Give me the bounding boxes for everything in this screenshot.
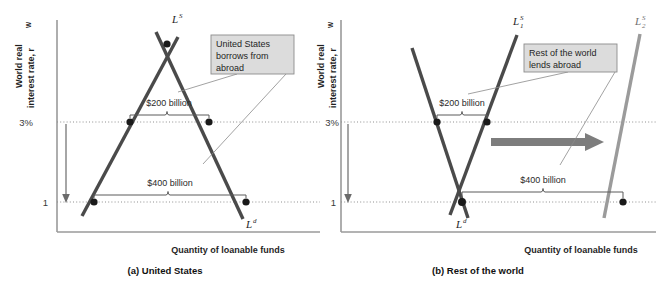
panel-b-supply2-label: L S 2 <box>634 14 646 30</box>
panel-a-point-demand-1 <box>242 198 249 205</box>
panel-b-callout-leader-1 <box>468 72 568 94</box>
panel-b-rate-fall-arrow <box>344 124 352 203</box>
panel-b-gap-200-brace <box>437 112 487 119</box>
panel-rest-of-the-world: World real interest rate, r W 3% 1 L S 1… <box>316 14 656 276</box>
panel-a-supply-curve <box>82 37 178 216</box>
panel-a-ytick-1: 1 <box>43 197 48 208</box>
svg-text:L: L <box>512 15 519 27</box>
panel-a-gap-400-label: $400 billion <box>147 178 193 188</box>
panel-a-point-equilibrium <box>163 40 170 47</box>
panel-b-y-axis-title: World real interest rate, r W <box>316 21 338 108</box>
svg-text:d: d <box>253 217 257 225</box>
svg-text:abroad: abroad <box>216 63 244 73</box>
panel-b-callout: Rest of the world lends abroad <box>524 44 617 72</box>
loanable-funds-figure: World real interest rate, r W 3% 1 L S L… <box>0 0 662 286</box>
panel-a-gap-200-label: $200 billion <box>146 98 192 108</box>
svg-text:d: d <box>463 217 467 225</box>
panel-b-supply-shift-arrow <box>491 133 604 151</box>
panel-b-supply1-curve <box>450 35 517 215</box>
panel-b-x-axis-title: Quantity of loanable funds <box>524 245 638 255</box>
svg-text:United States: United States <box>216 39 271 49</box>
svg-text:S: S <box>642 14 646 22</box>
panel-a-demand-label: L d <box>245 217 257 230</box>
panel-a-caption: (a) United States <box>128 265 203 276</box>
svg-text:S: S <box>179 12 183 20</box>
svg-text:2: 2 <box>642 22 646 30</box>
panel-a-y-axis-title-line2: interest rate, r <box>26 47 36 108</box>
panel-a-x-axis-title: Quantity of loanable funds <box>171 245 285 255</box>
panel-a-point-demand-3pct <box>205 118 212 125</box>
panel-b-y-axis-title-line1: World real <box>316 44 326 88</box>
panel-a-callout-leader-2 <box>203 74 286 164</box>
panel-a-supply-label: L S <box>171 12 183 25</box>
panel-b-ytick-1: 1 <box>331 197 336 208</box>
panel-b-ytick-3-percent: 3% <box>325 117 339 128</box>
panel-b-y-axis-title-subscript: W <box>327 21 334 28</box>
panel-a-point-supply-3pct <box>126 118 133 125</box>
svg-text:L: L <box>245 218 252 230</box>
panel-b-gap-400-brace <box>462 189 623 199</box>
svg-text:lends abroad: lends abroad <box>529 60 581 70</box>
panel-b-gap-200-label: $200 billion <box>439 98 485 108</box>
panel-b-point-supply1-3pct <box>483 118 490 125</box>
panel-a-y-axis-title: World real interest rate, r W <box>14 21 36 108</box>
panel-a-ytick-3-percent: 3% <box>19 117 33 128</box>
panel-b-point-demand-3pct <box>433 118 440 125</box>
panel-a-y-axis-title-subscript: W <box>25 21 32 28</box>
panel-a-y-axis-title-line1: World real <box>14 44 24 88</box>
svg-text:L: L <box>171 13 178 25</box>
svg-text:Rest of the world: Rest of the world <box>529 48 597 58</box>
panel-b-demand-label: L d <box>455 217 467 230</box>
panel-a-rate-fall-arrow <box>62 124 70 203</box>
panel-a-callout-leader-1 <box>178 74 237 92</box>
svg-text:L: L <box>455 218 462 230</box>
panel-b-caption: (b) Rest of the world <box>432 265 524 276</box>
panel-united-states: World real interest rate, r W 3% 1 L S L… <box>14 12 320 276</box>
figure-svg: World real interest rate, r W 3% 1 L S L… <box>0 0 662 286</box>
svg-text:S: S <box>520 14 524 22</box>
panel-b-point-initial-equilibrium <box>458 198 466 206</box>
panel-a-point-supply-1 <box>90 198 97 205</box>
svg-text:L: L <box>634 15 641 27</box>
panel-b-y-axis-title-line2: interest rate, r <box>328 47 338 108</box>
svg-text:borrows from: borrows from <box>216 51 269 61</box>
panel-a-gap-400-brace <box>94 192 246 199</box>
panel-b-point-supply2-1 <box>619 198 626 205</box>
panel-b-callout-leader-2 <box>560 72 615 165</box>
panel-b-gap-400-label: $400 billion <box>520 175 566 185</box>
panel-b-supply1-label: L S 1 <box>512 14 524 30</box>
svg-text:1: 1 <box>520 22 524 30</box>
panel-a-callout: United States borrows from abroad <box>211 35 294 74</box>
